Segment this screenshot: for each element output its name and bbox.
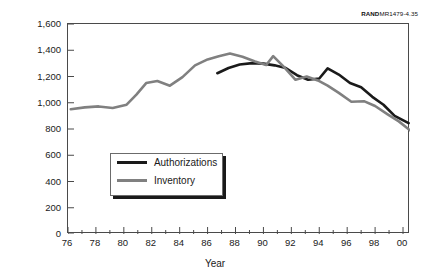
x-tick-label: 80	[118, 237, 129, 248]
chart-canvas	[68, 24, 410, 234]
legend-swatch-authorizations	[117, 161, 147, 164]
y-tick-label: 600	[45, 149, 61, 160]
legend-item: Authorizations	[111, 154, 222, 172]
x-tick-label: 00	[397, 237, 408, 248]
rand-code-text: MR1479-4.35	[379, 10, 418, 17]
legend-swatch-inventory	[117, 179, 147, 182]
x-tick-label: 98	[369, 237, 380, 248]
plot-area: Authorizations Inventory	[67, 23, 409, 233]
x-tick-label: 88	[229, 237, 240, 248]
y-tick-label: 1,600	[37, 18, 61, 29]
y-tick-label: 400	[45, 175, 61, 186]
x-tick-label: 82	[145, 237, 156, 248]
rand-credit-label: RANDMR1479-4.35	[361, 10, 418, 17]
y-tick-label: 0	[56, 228, 61, 239]
x-tick-label: 76	[62, 237, 73, 248]
y-tick-label: 1,000	[37, 96, 61, 107]
legend-label-authorizations: Authorizations	[154, 158, 217, 168]
x-tick-label: 90	[257, 237, 268, 248]
x-tick-label: 84	[173, 237, 184, 248]
legend-label-inventory: Inventory	[154, 176, 195, 186]
series-line-authorizations	[217, 63, 408, 123]
y-tick-label: 200	[45, 201, 61, 212]
chart-figure: RANDMR1479-4.35 Officers Year 0200400600…	[0, 0, 430, 278]
data-series-group	[71, 54, 410, 131]
legend-item: Inventory	[111, 172, 222, 190]
y-tick-label: 800	[45, 123, 61, 134]
chart-legend: Authorizations Inventory	[110, 153, 223, 196]
y-tick-label: 1,200	[37, 70, 61, 81]
x-tick-label: 78	[90, 237, 101, 248]
x-tick-label: 92	[285, 237, 296, 248]
x-tick-label: 96	[341, 237, 352, 248]
x-axis-title: Year	[0, 258, 430, 269]
rand-brand-text: RAND	[361, 10, 379, 17]
y-tick-label: 1,400	[37, 44, 61, 55]
x-tick-label: 86	[201, 237, 212, 248]
x-tick-label: 94	[313, 237, 324, 248]
